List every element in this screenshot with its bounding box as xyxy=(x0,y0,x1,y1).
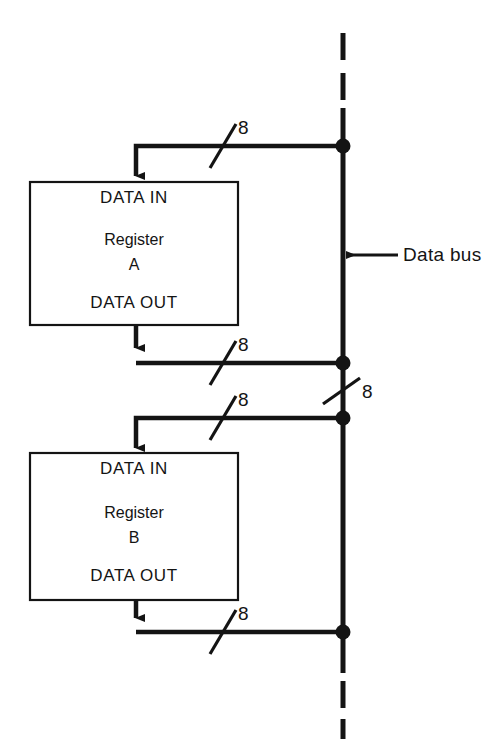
bus-width-label-a-in: 8 xyxy=(238,117,249,139)
bus-junction-dot xyxy=(336,356,351,371)
block-diagram: DATA IN Register A DATA OUT DATA IN Regi… xyxy=(0,0,504,739)
bus-junction-dot xyxy=(336,625,351,640)
register-b-data-out-label: DATA OUT xyxy=(30,566,238,586)
diagram-lines xyxy=(0,0,504,739)
bus-width-label-b-out: 8 xyxy=(238,603,249,625)
bus-junction-dot xyxy=(336,411,351,426)
register-b-data-in-label: DATA IN xyxy=(30,459,238,479)
data-bus-label: Data bus xyxy=(403,244,481,266)
register-a-data-out-label: DATA OUT xyxy=(30,293,238,313)
bus-junction-dot xyxy=(336,139,351,154)
register-a-letter: A xyxy=(30,256,238,274)
bus-width-label-bus-segment: 8 xyxy=(362,381,373,403)
bus-width-label-a-out: 8 xyxy=(238,334,249,356)
register-b-name: Register xyxy=(30,504,238,522)
register-a-data-in-label: DATA IN xyxy=(30,188,238,208)
register-a-name: Register xyxy=(30,231,238,249)
register-b-letter: B xyxy=(30,529,238,547)
bus-width-label-b-in: 8 xyxy=(238,389,249,411)
